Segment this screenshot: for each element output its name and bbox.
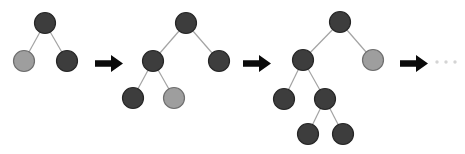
tree-node-light <box>14 51 35 72</box>
tree-node-dark <box>209 51 230 72</box>
tree-node-dark <box>330 12 351 33</box>
right-arrow-icon <box>243 55 271 72</box>
tree-node-dark <box>57 51 78 72</box>
binary-tree-3 <box>274 12 384 145</box>
tree-node-dark <box>123 88 144 109</box>
tree-sequence-svg <box>0 0 465 154</box>
binary-tree-1 <box>14 13 78 72</box>
tree-node-light <box>164 88 185 109</box>
tree-node-dark <box>35 13 56 34</box>
tree-node-dark <box>298 124 319 145</box>
tree-node-light <box>363 50 384 71</box>
tree-node-dark <box>293 50 314 71</box>
right-arrow-icon <box>95 55 123 72</box>
tree-node-dark <box>333 124 354 145</box>
ellipsis-dot <box>444 60 447 63</box>
tree-sequence-diagram <box>0 0 465 154</box>
tree-node-dark <box>143 51 164 72</box>
binary-tree-2 <box>123 13 230 109</box>
right-arrow-icon <box>400 55 428 72</box>
tree-node-dark <box>274 89 295 110</box>
ellipsis-dot <box>453 60 456 63</box>
ellipsis-dot <box>435 60 438 63</box>
tree-node-dark <box>176 13 197 34</box>
tree-node-dark <box>315 89 336 110</box>
